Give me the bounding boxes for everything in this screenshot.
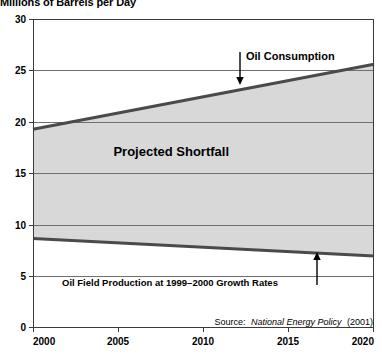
annotation-oil-consumption-arrow-down-icon xyxy=(236,52,243,85)
annotation-oil-field-production-label: Oil Field Production at 1999–2000 Growth… xyxy=(62,277,278,288)
chart-plot-area: 30 25 20 15 10 5 0 2000 2005 2010 2015 2… xyxy=(0,0,382,358)
y-tick-label-5: 5 xyxy=(20,271,26,282)
source-prefix: Source: xyxy=(214,317,245,327)
y-tick-label-30: 30 xyxy=(15,14,27,25)
x-tick-label-2015: 2015 xyxy=(277,336,300,347)
x-tick-label-2020: 2020 xyxy=(352,336,375,347)
y-tick-label-20: 20 xyxy=(15,117,27,128)
source-publication: National Energy Policy xyxy=(251,317,342,327)
y-axis-ticks xyxy=(29,20,33,328)
x-tick-label-2005: 2005 xyxy=(107,336,130,347)
y-tick-label-15: 15 xyxy=(15,168,27,179)
x-tick-label-2010: 2010 xyxy=(192,336,215,347)
annotation-oil-consumption-label: Oil Consumption xyxy=(246,50,335,62)
y-tick-label-25: 25 xyxy=(15,65,27,76)
annotation-projected-shortfall-label: Projected Shortfall xyxy=(113,144,229,159)
source-note: Source: National Energy Policy (2001) xyxy=(214,317,373,327)
chart-figure: Millions of Barrels per Day xyxy=(0,0,382,358)
source-year: (2001) xyxy=(347,317,373,327)
projected-shortfall-band xyxy=(33,64,374,256)
x-axis-ticks xyxy=(34,328,374,332)
y-tick-label-10: 10 xyxy=(15,220,27,231)
annotation-oil-field-production-arrow-up-icon xyxy=(313,252,320,285)
y-tick-label-0: 0 xyxy=(20,322,26,333)
x-tick-label-2000: 2000 xyxy=(33,336,56,347)
